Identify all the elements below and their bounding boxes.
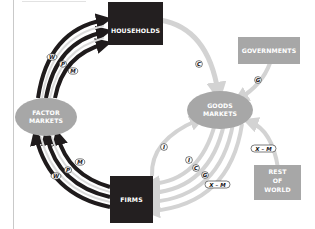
households-node: HOUSEHOLDS	[108, 2, 163, 45]
svg-text:G: G	[203, 172, 208, 178]
firms-label: FIRMS	[120, 196, 142, 203]
flow-label-G-government: G	[255, 77, 262, 84]
flow-label-C-consumption: C	[196, 61, 203, 68]
firms-to-factor-flows	[36, 137, 110, 207]
rest-of-world-node: REST OF WORLD	[254, 165, 301, 200]
svg-text:X – M: X – M	[254, 146, 272, 152]
svg-text:W: W	[49, 54, 56, 60]
flow-label-G-firms: G	[202, 172, 209, 179]
svg-text:M: M	[70, 68, 76, 74]
factor-markets-label-line2: MARKETS	[29, 117, 63, 124]
rest-of-world-label-line2: OF	[273, 177, 283, 184]
svg-text:W: W	[53, 173, 60, 179]
svg-text:P: P	[66, 167, 70, 173]
svg-text:M: M	[77, 159, 83, 165]
svg-text:P: P	[61, 61, 65, 67]
flow-label-net-exports-world: X – M	[251, 145, 276, 152]
firms-node: FIRMS	[110, 176, 153, 223]
goods-markets-label-line1: GOODS	[207, 102, 233, 109]
goods-markets-node: GOODS MARKETS	[187, 91, 253, 129]
flow-label-M-upper: M	[68, 68, 78, 74]
goods-markets-label-line2: MARKETS	[203, 110, 237, 117]
rest-of-world-label-line1: REST	[268, 168, 287, 175]
flow-label-C-firms: C	[193, 165, 200, 172]
households-to-goods-flow	[160, 20, 218, 92]
factor-markets-label-line1: FACTOR	[32, 109, 60, 116]
flow-label-I-investment: I	[186, 157, 193, 164]
governments-label: GOVERNMENTS	[242, 47, 296, 54]
flow-label-P-upper: P	[59, 61, 66, 67]
flow-label-I-investment-outer: I	[161, 144, 168, 151]
flow-label-W-lower: W	[51, 173, 61, 179]
svg-text:I: I	[163, 144, 165, 150]
circular-flow-diagram: HOUSEHOLDS FIRMS FACTOR MARKETS GOODS MA…	[0, 0, 315, 229]
svg-text:X – M: X – M	[208, 182, 226, 188]
svg-text:C: C	[194, 165, 198, 171]
households-label: HOUSEHOLDS	[111, 27, 160, 34]
flow-label-P-lower: P	[64, 167, 71, 173]
flow-label-W-upper: W	[47, 54, 57, 60]
svg-text:I: I	[188, 157, 190, 163]
flow-label-net-exports-firms: X – M	[205, 181, 230, 188]
rest-of-world-label-line3: WORLD	[264, 186, 290, 193]
svg-text:G: G	[256, 77, 261, 83]
flow-label-M-lower: M	[75, 159, 85, 165]
governments-node: GOVERNMENTS	[238, 37, 300, 64]
factor-markets-node: FACTOR MARKETS	[15, 98, 77, 136]
svg-text:C: C	[197, 61, 201, 67]
